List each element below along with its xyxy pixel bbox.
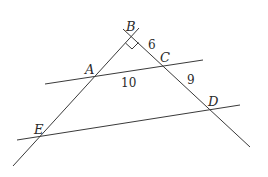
point-label-e: E (33, 122, 44, 137)
geometry-diagram: B A C D E 6 10 9 (0, 0, 268, 177)
segment-label-bc: 6 (148, 38, 156, 52)
point-label-b: B (125, 19, 136, 34)
point-label-c: C (160, 50, 170, 65)
line-be (13, 28, 139, 166)
point-label-a: A (84, 62, 94, 77)
line-ed (17, 105, 240, 140)
line-bd (123, 29, 250, 147)
segment-label-cd: 9 (187, 73, 195, 87)
right-angle-marker-icon (126, 43, 139, 50)
segment-label-ac: 10 (121, 76, 136, 90)
point-label-d: D (207, 94, 219, 109)
